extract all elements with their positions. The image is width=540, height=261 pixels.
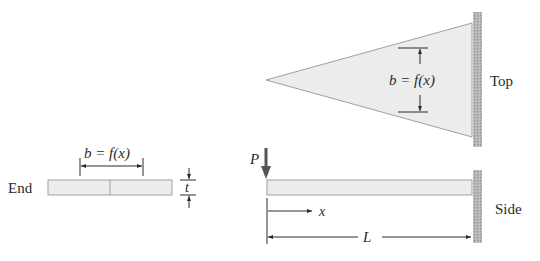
end-t-label: t (185, 180, 190, 195)
top-view-label: Top (490, 73, 513, 89)
top-view: b = f(x) Top (266, 12, 513, 147)
side-beam (267, 180, 472, 195)
end-view-label: End (8, 180, 33, 196)
cantilever-beam-diagram: End b = f(x) t b = f(x) Top P (0, 0, 540, 261)
side-fixed-wall (473, 170, 482, 243)
top-fixed-wall (473, 12, 482, 147)
load-arrow-head (261, 166, 271, 179)
top-b-label: b = f(x) (389, 72, 435, 89)
tapered-beam-planform (266, 23, 472, 137)
side-view: P x L Side (249, 148, 522, 245)
side-view-label: Side (495, 201, 522, 217)
load-label: P (249, 151, 259, 167)
end-view: End b = f(x) t (8, 145, 196, 208)
x-position-label: x (318, 204, 326, 219)
length-label: L (362, 229, 371, 245)
end-b-label: b = f(x) (84, 145, 130, 162)
